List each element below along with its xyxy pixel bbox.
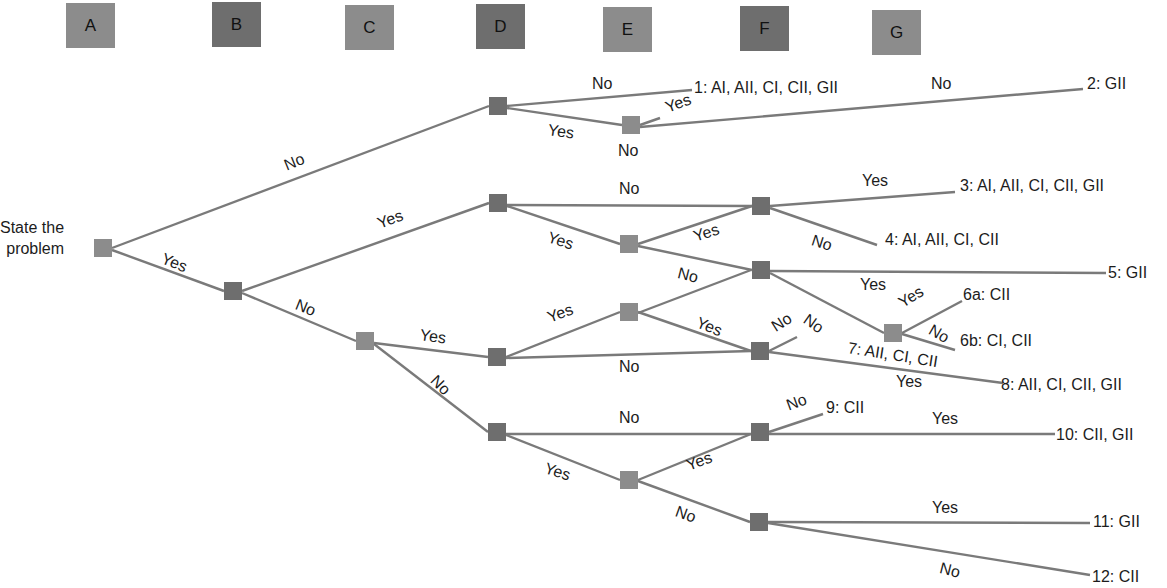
decision-node-d4 — [488, 423, 506, 441]
branch-label-no: No — [619, 410, 639, 426]
tree-edge — [638, 312, 751, 351]
outcome-10: 10: CII, GII — [1056, 427, 1133, 443]
decision-node-g1 — [884, 324, 902, 342]
tree-edge — [242, 203, 489, 291]
outcome-3: 3: AI, AII, CI, CII, GII — [960, 178, 1104, 194]
decision-node-f5 — [750, 513, 768, 531]
decision-node-e2 — [620, 235, 638, 253]
decision-node-b1 — [224, 282, 242, 300]
decision-node-d2 — [489, 194, 507, 212]
outcome-11: 11: GII — [1093, 514, 1140, 530]
branch-label-no: No — [619, 359, 639, 375]
outcome-6b: 6b: CI, CII — [960, 333, 1032, 349]
tree-edge — [507, 205, 752, 206]
outcome-2: 2: GII — [1087, 76, 1126, 92]
outcome-1: 1: AI, AII, CI, CII, GII — [694, 80, 838, 96]
outcome-9: 9: CII — [826, 400, 864, 416]
decision-node-d3 — [488, 348, 506, 366]
decision-node-f2 — [752, 261, 770, 279]
tree-edge — [770, 271, 1106, 273]
branch-label-yes: Yes — [862, 173, 888, 189]
branch-label-yes: Yes — [419, 327, 447, 346]
outcome-8: 8: AII, CI, CII, GII — [1001, 377, 1122, 393]
branch-label-no: No — [619, 181, 639, 197]
tree-edge — [640, 118, 660, 125]
outcome-4: 4: AI, AII, CI, CII — [885, 232, 999, 248]
decision-node-e1 — [622, 116, 640, 134]
decision-node-f3 — [751, 342, 769, 360]
outcome-12: 12: CII — [1092, 569, 1139, 585]
decision-node-e4 — [620, 471, 638, 489]
branch-label-yes: Yes — [896, 374, 922, 390]
tree-edge — [769, 414, 823, 432]
branch-label-yes: Yes — [932, 500, 958, 516]
branch-label-yes: Yes — [860, 277, 886, 293]
branch-label-no: No — [618, 143, 638, 159]
decision-node-f4 — [751, 423, 769, 441]
tree-edge — [768, 523, 1090, 575]
tree-edge — [770, 192, 955, 206]
outcome-6a: 6a: CII — [963, 287, 1010, 303]
tree-edge — [768, 522, 1090, 523]
start-label: State the problem — [0, 217, 64, 259]
tree-edge — [112, 106, 489, 248]
tree-edge — [374, 343, 488, 357]
decision-node-c1 — [356, 332, 374, 350]
branch-label-no: No — [931, 76, 951, 92]
decision-node-f1 — [752, 197, 770, 215]
branch-label-yes: Yes — [932, 411, 958, 427]
tree-edge — [506, 351, 751, 358]
branch-label-no: No — [592, 76, 612, 92]
decision-node-root — [94, 239, 112, 257]
decision-node-e3 — [620, 303, 638, 321]
branch-label-yes: Yes — [547, 122, 575, 141]
outcome-5: 5: GII — [1108, 265, 1147, 281]
tree-edge — [769, 337, 797, 351]
decision-node-d1 — [489, 97, 507, 115]
tree-edge — [638, 246, 752, 270]
